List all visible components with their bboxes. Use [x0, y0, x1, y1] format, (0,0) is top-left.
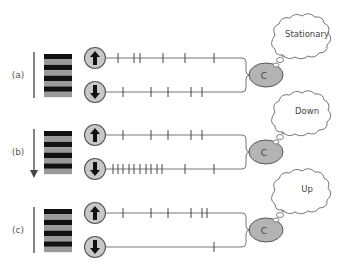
grating-stimulus	[44, 131, 72, 174]
grating-stimulus	[44, 54, 72, 97]
comparator-label: C	[261, 226, 267, 236]
axon-line	[106, 58, 250, 75]
panel-a: (a)CStationary	[12, 14, 331, 103]
thought-cloud-text: Up	[301, 184, 313, 194]
panel-label: (a)	[12, 70, 25, 80]
thought-bubble-dot	[277, 58, 284, 63]
down-arrow-icon	[30, 170, 38, 178]
thought-bubble-dot	[273, 140, 279, 144]
panel-label: (c)	[12, 225, 24, 235]
comparator-label: C	[261, 71, 267, 81]
motion-detection-diagram: (a)CStationary(b)CDown(c)CUp	[0, 0, 351, 272]
panel-label: (b)	[12, 147, 25, 157]
panel-c: (c)CUp	[12, 169, 331, 258]
thought-bubble-dot	[273, 63, 279, 67]
thought-cloud-text: Stationary	[285, 29, 329, 39]
grating-stimulus	[44, 209, 72, 252]
panel-b: (b)CDown	[12, 91, 331, 180]
thought-bubble-dot	[273, 218, 279, 222]
comparator-label: C	[261, 148, 267, 158]
axon-line	[106, 75, 250, 92]
axon-line	[106, 152, 250, 169]
thought-cloud-text: Down	[295, 106, 319, 116]
axon-line	[106, 230, 250, 247]
axon-line	[106, 135, 250, 152]
thought-bubble-dot	[277, 135, 284, 140]
thought-bubble-dot	[277, 213, 284, 218]
axon-line	[106, 213, 250, 230]
